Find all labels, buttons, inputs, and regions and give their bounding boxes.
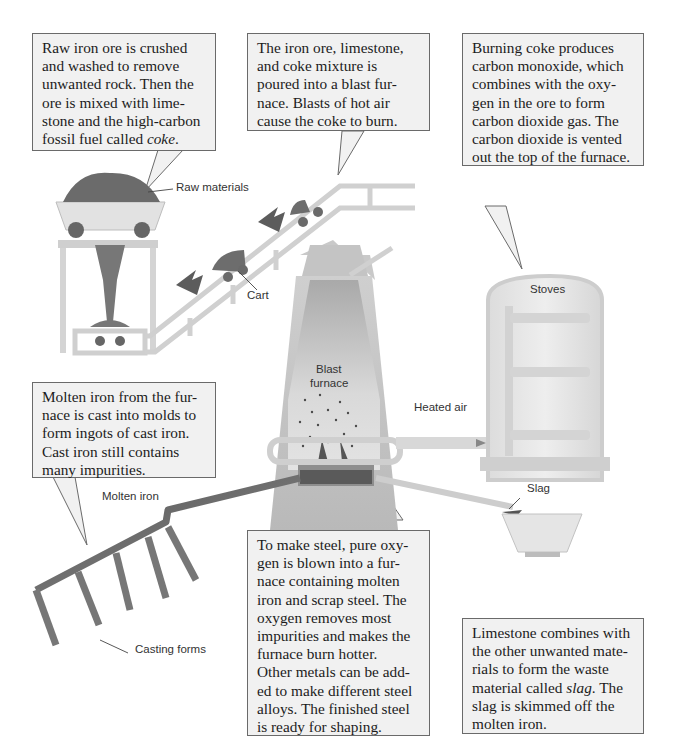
callout-line: To make steel, pure oxy- (257, 536, 420, 554)
stoves (480, 276, 610, 480)
callout-line: carbon dioxide gas. The (472, 112, 634, 130)
callout-line: and washed to remove (42, 57, 206, 75)
callout-line: poured into a blast fur- (257, 75, 420, 93)
label-raw-materials: Raw materials (176, 181, 249, 193)
callout-line: Burning coke produces (472, 39, 634, 57)
callout-line: impurities and makes the (257, 627, 420, 645)
callout-line: gen is blown into a fur- (257, 554, 420, 572)
callout-blast-furnace: The iron ore, limestone, and coke mixtur… (247, 33, 430, 131)
callout-text: . The (592, 679, 623, 696)
callout-line: material called slag. The (472, 679, 634, 697)
callout-line: oxygen removes most (257, 609, 420, 627)
label-cart: Cart (247, 289, 269, 301)
callout-line: nace. Blasts of hot air (257, 94, 420, 112)
callout-line: furnace burn hotter. (257, 645, 420, 663)
callout-slag: Limestone combines with the other unwant… (462, 618, 644, 734)
blast-furnace (270, 240, 490, 530)
slag-term: slag (566, 679, 592, 696)
callout-line: Other metals can be add- (257, 663, 420, 681)
label-casting-forms: Casting forms (135, 643, 206, 655)
callout-line: many impurities. (42, 461, 206, 479)
callout-line: carbon dioxide is vented (472, 130, 634, 148)
label-stoves: Stoves (530, 283, 565, 295)
label-slag: Slag (527, 482, 550, 494)
callout-line: alloys. The finished steel (257, 700, 420, 718)
label-blast-furnace-line1: Blast (316, 363, 342, 375)
callout-raw-ore: Raw iron ore is crushed and washed to re… (32, 33, 216, 151)
callout-line: rials to form the waste (472, 660, 634, 678)
callout-molten-iron: Molten iron from the fur- nace is cast i… (32, 382, 216, 478)
callout-line: ore is mixed with lime- (42, 94, 206, 112)
callout-line: unwanted rock. Then the (42, 75, 206, 93)
callout-line: The iron ore, limestone, (257, 39, 420, 57)
callout-line: iron and scrap steel. The (257, 591, 420, 609)
callout-line: form ingots of cast iron. (42, 424, 206, 442)
hopper-structure (56, 173, 165, 353)
label-molten-iron: Molten iron (102, 490, 159, 502)
callout-line: molten iron. (472, 715, 634, 733)
callout-line: Raw iron ore is crushed (42, 39, 206, 57)
callout-line: cause the coke to burn. (257, 112, 420, 130)
callout-line: out the top of the furnace. (472, 148, 634, 166)
callout-line: ed to make different steel (257, 682, 420, 700)
coke-term: coke (147, 130, 175, 147)
label-heated-air: Heated air (414, 401, 467, 413)
callout-line: nace containing molten (257, 572, 420, 590)
callout-line: fossil fuel called coke. (42, 130, 206, 148)
callout-line: gen in the ore to form (472, 94, 634, 112)
callout-text: material called (472, 679, 566, 696)
callout-coke: Burning coke produces carbon monoxide, w… (462, 33, 644, 166)
callout-line: Cast iron still contains (42, 443, 206, 461)
callout-line: and coke mixture is (257, 57, 420, 75)
iron-steel-diagram: Raw iron ore is crushed and washed to re… (0, 0, 675, 755)
callout-line: combines with the oxy- (472, 75, 634, 93)
callout-line: Limestone combines with (472, 624, 634, 642)
callout-line: slag is skimmed off the (472, 697, 634, 715)
callout-line: the other unwanted mate- (472, 642, 634, 660)
callout-steel: To make steel, pure oxy- gen is blown in… (247, 530, 430, 736)
callout-line: stone and the high-carbon (42, 112, 206, 130)
callout-line: Molten iron from the fur- (42, 388, 206, 406)
label-blast-furnace-line2: furnace (310, 377, 348, 389)
callout-line: nace is cast into molds to (42, 406, 206, 424)
callout-line: carbon monoxide, which (472, 57, 634, 75)
callout-line: is ready for shaping. (257, 718, 420, 736)
